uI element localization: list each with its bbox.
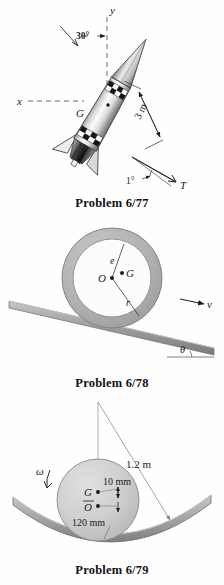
y-axis-label: y	[109, 4, 115, 16]
velocity-arrow	[180, 299, 204, 304]
trough-radius-label: 1.2 m	[126, 458, 152, 470]
textbook-figure-page: y x 30°	[0, 0, 224, 585]
ring-center-label: O	[98, 272, 106, 284]
figure-problem-6-79: 1.2 m ω G O 10 mm	[0, 402, 224, 560]
ring-mass-center-label: G	[126, 267, 134, 279]
figure-problem-6-78: r e O G v θ	[0, 222, 224, 374]
figure-problem-6-77: y x 30°	[0, 0, 224, 195]
ring-center-dot	[110, 276, 114, 280]
attitude-angle-label: 30°	[76, 31, 90, 41]
cylinder-geometric-center-label: O	[84, 501, 92, 513]
thrust-force-label: T	[180, 179, 187, 191]
eccentricity-label: e	[110, 255, 115, 266]
angular-velocity-label: ω	[36, 465, 44, 477]
caption-problem-6-78: Problem 6/78	[0, 376, 224, 391]
radius-label: r	[126, 297, 130, 308]
thrust-vector	[132, 157, 176, 186]
cylinder-mass-center-label: G	[84, 486, 92, 498]
offset-dimension-label: 10 mm	[103, 476, 131, 487]
x-axis-label: x	[16, 95, 22, 107]
rocket-nose-cone	[111, 34, 155, 88]
figure-2-canvas: r e O G v θ	[0, 222, 224, 374]
incline-angle-label: θ	[180, 344, 185, 355]
figure-1-canvas: y x 30°	[0, 0, 224, 195]
angular-velocity-arrow	[44, 470, 52, 488]
caption-problem-6-79: Problem 6/79	[0, 563, 224, 578]
center-of-mass-label: G	[76, 107, 84, 119]
velocity-label: v	[207, 298, 212, 310]
rolling-cylinder	[57, 459, 139, 541]
rocket-assembly	[50, 26, 168, 178]
ring-mass-center-dot	[120, 271, 124, 275]
figure-3-canvas: 1.2 m ω G O 10 mm	[0, 402, 224, 560]
thrust-angle-label: 1°	[126, 176, 135, 186]
caption-problem-6-77: Problem 6/77	[0, 196, 224, 211]
diameter-label: 120 mm	[72, 517, 105, 528]
length-dimension-label: 3 m	[132, 102, 149, 121]
